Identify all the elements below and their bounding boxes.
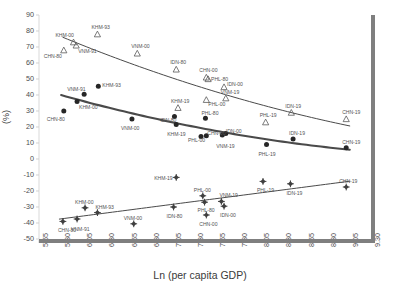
data-point-label: CHN-19: [339, 179, 357, 184]
data-point-label: PHL-00: [188, 138, 205, 143]
data-point-label: CHN-00: [199, 222, 217, 227]
data-point-label: VNM-91: [71, 227, 89, 232]
data-point-labels: CHN-80KHM-00VNM-91KHM-93VNM-00IDN-80CHN-…: [0, 0, 414, 291]
data-point-label: KHM-00: [79, 105, 97, 110]
data-point-label: KHM-19: [167, 132, 185, 137]
data-point-label: IDN-00: [220, 213, 236, 218]
data-point-label: CHN-00: [199, 68, 217, 73]
data-point-label: CHN-19: [342, 140, 360, 145]
data-point-label: PHL-19: [257, 188, 274, 193]
data-point-label: KHM-00: [56, 33, 74, 38]
data-point-label: IDN-19: [289, 131, 305, 136]
data-point-label: IDN-19: [285, 104, 301, 109]
data-point-label: VNM-00: [124, 216, 142, 221]
data-point-label: CHN-80: [47, 117, 65, 122]
data-point-label: IDN-80: [160, 118, 176, 123]
data-point-label: VNM-19: [219, 193, 237, 198]
data-point-label: KHM-93: [95, 205, 113, 210]
data-point-label: VNM-91: [67, 87, 85, 92]
data-point-label: PHL-00: [208, 102, 225, 107]
data-point-label: VNM-91: [78, 49, 96, 54]
data-point-label: KHM-19: [171, 99, 189, 104]
data-point-label: IDN-19: [286, 191, 302, 196]
data-point-label: KHM-19: [154, 176, 172, 181]
data-point-label: IDN-80: [170, 60, 186, 65]
chart-figure: 9080706050403020100-10-20-30-40-50 5.555…: [0, 0, 414, 291]
data-point-label: VNM-00: [121, 126, 139, 131]
data-point-label: PHL-80: [211, 77, 228, 82]
data-point-label: PHL-80: [198, 208, 215, 213]
data-point-label: KHM-00: [75, 200, 93, 205]
y-axis-title: (%): [1, 97, 11, 137]
data-point-label: CHN-80: [44, 54, 62, 59]
data-point-label: VNM-19: [216, 144, 234, 149]
data-point-label: IDN-00: [227, 82, 243, 87]
data-point-label: PHL-00: [194, 188, 211, 193]
data-point-label: KHM-93: [102, 83, 120, 88]
data-point-label: PHL-80: [201, 111, 218, 116]
x-axis-title: Ln (per capita GDP): [0, 269, 400, 281]
data-point-label: IDN-80: [167, 214, 183, 219]
data-point-label: PHL-19: [259, 152, 276, 157]
data-point-label: CHN-00: [207, 131, 225, 136]
data-point-label: IDN-00: [226, 129, 242, 134]
data-point-label: PHL-19: [260, 113, 277, 118]
data-point-label: VNM-19: [221, 90, 239, 95]
data-point-label: VNM-00: [131, 44, 149, 49]
data-point-label: CHN-19: [342, 110, 360, 115]
data-point-label: KHM-93: [91, 25, 109, 30]
